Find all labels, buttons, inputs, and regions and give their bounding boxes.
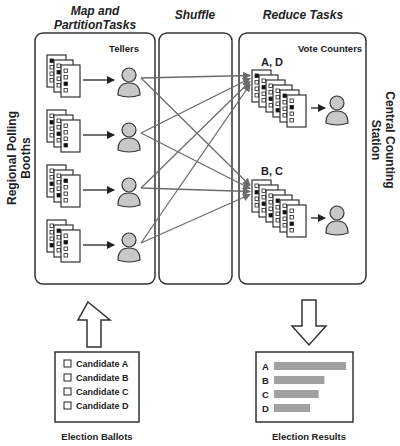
ballot-checkbox (290, 216, 294, 220)
ballot-checkbox (57, 119, 61, 123)
shuffle-arrow (141, 76, 250, 79)
ballot-checkbox (283, 114, 287, 118)
ballot-checkbox (276, 206, 280, 210)
ballot-checkbox (64, 234, 68, 238)
ballot-checkbox (50, 134, 54, 138)
ballot-checkbox (50, 114, 54, 118)
ballot-checkbox (64, 192, 68, 196)
results-caption: Election Results (272, 431, 346, 442)
ballot-checkbox (50, 182, 54, 186)
ballot-checkbox (262, 202, 266, 206)
checkbox-icon (64, 402, 71, 409)
ballot-sheet (61, 230, 80, 262)
ballot-checkbox (50, 189, 54, 193)
checkbox-icon (64, 374, 71, 381)
result-bar (274, 390, 319, 398)
ballot-checkbox (269, 207, 273, 211)
ballot-checkbox (57, 236, 61, 240)
ballot-checkbox (283, 107, 287, 111)
vote-counters-label: Vote Counters (298, 43, 362, 54)
side-label-left: Regional Polling Booths (5, 111, 33, 205)
ballot-checkbox (57, 84, 61, 88)
header-map-line2: PartitionTasks (54, 18, 137, 32)
ballot-checkbox (64, 131, 68, 135)
ballot-checkbox (57, 229, 61, 233)
ballot-option-label: Candidate D (76, 401, 129, 411)
ballot-checkbox (269, 84, 273, 88)
ballot-checkbox (50, 121, 54, 125)
ballot-stack (47, 110, 80, 152)
ballots-caption: Election Ballots (61, 431, 132, 442)
ballot-checkbox (269, 97, 273, 101)
ballot-checkbox (64, 186, 68, 190)
result-bar (274, 362, 346, 370)
ballot-checkbox (64, 241, 68, 245)
result-bar (274, 376, 324, 384)
ballot-checkbox (269, 91, 273, 95)
ballot-stack (47, 165, 80, 207)
shuffle-frame (159, 33, 232, 284)
shuffle-arrow (141, 78, 250, 186)
ballot-sheet (287, 205, 306, 237)
ballot-checkbox (290, 209, 294, 213)
ballot-checkbox (50, 127, 54, 131)
ballot-checkbox (276, 109, 280, 113)
result-label: D (262, 403, 269, 414)
side-label-right: Central Counting Station (369, 91, 397, 188)
side-label-left-line1: Regional Polling (5, 111, 19, 205)
ballot-checkbox (255, 87, 259, 91)
ballot-checkbox (290, 222, 294, 226)
ballot-checkbox (276, 212, 280, 216)
ballot-stack (47, 55, 80, 97)
ballot-checkbox (64, 199, 68, 203)
ballot-checkbox (57, 77, 61, 81)
ballot-checkbox (262, 209, 266, 213)
ballot-checkbox (50, 237, 54, 241)
ballot-checkbox (276, 199, 280, 203)
ballot-sheet (61, 120, 80, 152)
ballot-checkbox (290, 106, 294, 110)
person-icon (118, 233, 140, 262)
ballot-checkbox (50, 231, 54, 235)
checkbox-icon (64, 360, 71, 367)
ballot-checkbox (283, 224, 287, 228)
ballot-checkbox (283, 101, 287, 105)
ballot-checkbox (50, 72, 54, 76)
ballot-checkbox (57, 194, 61, 198)
shuffle-arrow (141, 188, 250, 192)
ballot-checkbox (64, 76, 68, 80)
ballot-checkbox (283, 94, 287, 98)
ballot-checkbox (50, 169, 54, 173)
ballot-checkbox (276, 102, 280, 106)
reduce-ballot-stack (252, 180, 306, 237)
result-label: C (262, 389, 269, 400)
ballot-checkbox (50, 244, 54, 248)
ballot-checkbox (255, 204, 259, 208)
ballot-checkbox (57, 249, 61, 253)
shuffle-arrow (141, 133, 250, 189)
result-bar (274, 404, 310, 412)
ballot-checkbox (255, 81, 259, 85)
ballot-checkbox (64, 89, 68, 93)
ballot-sheet (287, 95, 306, 127)
checkbox-icon (64, 388, 71, 395)
ballot-checkbox (283, 211, 287, 215)
ballot-checkbox (262, 92, 266, 96)
ballot-checkbox (276, 96, 280, 100)
group-label-ad: A, D (261, 56, 283, 68)
ballot-option-label: Candidate C (76, 387, 129, 397)
ballot-option-label: Candidate A (76, 359, 129, 369)
ballot-checkbox (57, 139, 61, 143)
ballot-checkbox (269, 194, 273, 198)
ballot-checkbox (283, 204, 287, 208)
ballot-sheet (61, 175, 80, 207)
tellers-label: Tellers (109, 43, 139, 54)
ballot-checkbox (57, 181, 61, 185)
ballot-checkbox (269, 201, 273, 205)
group-label-bc: B, C (261, 165, 283, 177)
person-icon (118, 123, 140, 152)
ballot-checkbox (276, 89, 280, 93)
ballot-checkbox (64, 69, 68, 73)
ballot-checkbox (290, 119, 294, 123)
reduce-ballot-stack (252, 70, 306, 127)
